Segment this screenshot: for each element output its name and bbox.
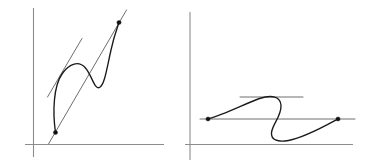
left-panel-left-endpoint	[53, 130, 57, 134]
right-panel	[185, 12, 355, 160]
right-panel-left-endpoint	[206, 117, 210, 121]
left-panel	[25, 8, 164, 157]
left-panel-right-endpoint	[117, 20, 121, 24]
right-panel-right-endpoint	[336, 117, 340, 121]
left-panel-tangent-line	[48, 39, 83, 98]
mvt-figure	[0, 0, 368, 165]
